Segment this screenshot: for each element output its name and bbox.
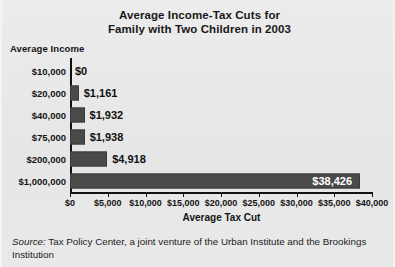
bar-value-label: $4,918 <box>112 153 146 165</box>
x-axis-tick <box>146 192 147 197</box>
x-axis-tick <box>259 192 260 197</box>
bar-value-label: $0 <box>75 65 87 77</box>
bar-row: $1,000,000$38,426 <box>70 170 372 192</box>
bar-row: $20,000$1,161 <box>70 82 372 104</box>
category-label: $75,000 <box>4 132 66 143</box>
x-axis-tick-label: $0 <box>65 198 75 208</box>
bar-row: $40,000$1,932 <box>70 104 372 126</box>
source-text: Tax Policy Center, a joint venture of th… <box>12 236 366 260</box>
x-axis-tick <box>221 192 222 197</box>
x-axis-tick-label: $30,000 <box>280 198 313 208</box>
category-label: $1,000,000 <box>4 176 66 187</box>
y-axis-title: Average Income <box>10 43 84 54</box>
category-label: $20,000 <box>4 88 66 99</box>
bar-value-label: $1,161 <box>84 87 118 99</box>
bar-value-label: $38,426 <box>312 175 352 187</box>
x-axis-title: Average Tax Cut <box>70 212 373 223</box>
bar-row: $10,000$0 <box>70 60 372 82</box>
bar <box>70 86 79 101</box>
category-label: $200,000 <box>4 154 66 165</box>
chart-title: Average Income-Tax Cuts for Family with … <box>2 8 395 36</box>
x-axis-tick-label: $10,000 <box>129 198 162 208</box>
bar-value-label: $1,932 <box>90 109 124 121</box>
category-label: $10,000 <box>4 66 66 77</box>
x-axis-tick <box>297 192 298 197</box>
x-axis-tick-label: $20,000 <box>205 198 238 208</box>
chart-figure: Average Income-Tax Cuts for Family with … <box>0 0 395 267</box>
x-axis-tick <box>108 192 109 197</box>
chart-title-line-2: Family with Two Children in 2003 <box>2 22 395 36</box>
plot-area: $10,000$0$20,000$1,161$40,000$1,932$75,0… <box>70 60 372 192</box>
x-axis-tick <box>334 192 335 197</box>
bar-value-label: $1,938 <box>90 131 124 143</box>
x-axis-tick-label: $25,000 <box>242 198 275 208</box>
x-axis-tick <box>70 192 71 197</box>
x-axis-tick <box>183 192 184 197</box>
x-axis-tick <box>372 192 373 197</box>
source-note: Source: Tax Policy Center, a joint ventu… <box>12 236 372 261</box>
x-axis-tick-label: $40,000 <box>356 198 389 208</box>
bar <box>70 152 107 167</box>
bar <box>70 108 85 123</box>
bar <box>70 130 85 145</box>
source-label: Source: <box>12 236 46 247</box>
x-axis-tick-label: $15,000 <box>167 198 200 208</box>
bar-row: $200,000$4,918 <box>70 148 372 170</box>
bar-row: $75,000$1,938 <box>70 126 372 148</box>
x-axis-tick-label: $5,000 <box>94 198 122 208</box>
chart-title-line-1: Average Income-Tax Cuts for <box>2 8 395 22</box>
x-axis-tick-label: $35,000 <box>318 198 351 208</box>
category-label: $40,000 <box>4 110 66 121</box>
